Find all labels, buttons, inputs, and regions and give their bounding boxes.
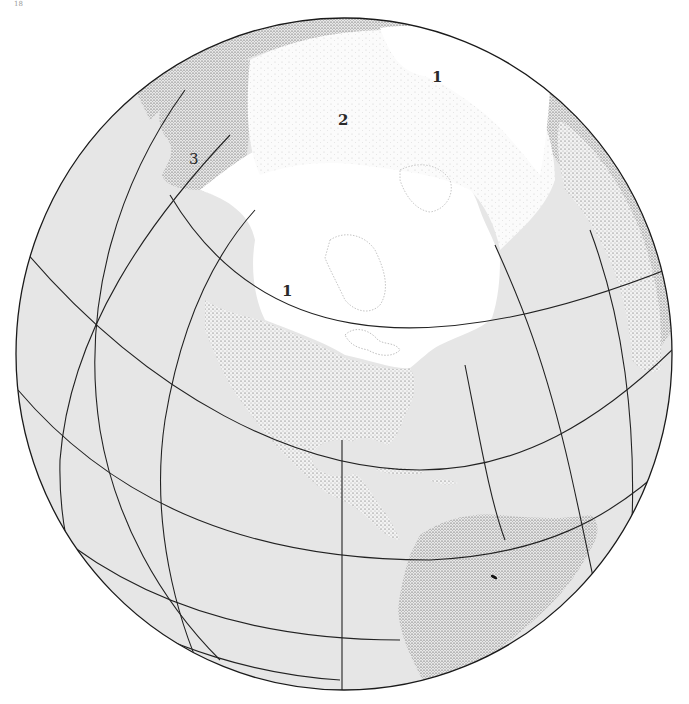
label-arctic: 2 — [338, 111, 348, 129]
globe-map: 1 2 1 3 — [0, 0, 689, 704]
label-beringia: 3 — [189, 150, 199, 168]
label-laurentide: 1 — [282, 282, 292, 300]
label-eurasian: 1 — [432, 68, 442, 86]
gulf-of-mexico — [312, 440, 368, 476]
